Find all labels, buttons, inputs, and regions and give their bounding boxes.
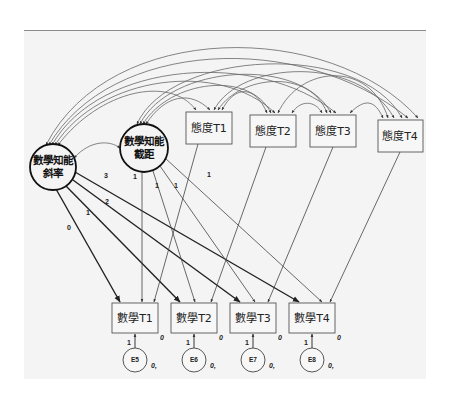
error-E6[interactable]: E6	[182, 348, 206, 372]
latent-slope-label-1: 數學知能	[33, 154, 74, 166]
E6-label: E6	[190, 356, 198, 363]
intercept-loading-4: 1	[207, 171, 211, 178]
math1-intercept: 0	[160, 334, 164, 341]
att4-label: 態度T4	[382, 129, 418, 143]
indicator-math2[interactable]: 數學T2	[171, 303, 217, 333]
intercept-loading-2: 1	[155, 182, 159, 189]
E7-label: E7	[249, 356, 257, 363]
att2-label: 態度T2	[255, 124, 291, 138]
covariate-paths	[154, 144, 400, 302]
latent-intercept[interactable]: 數學知能 截距	[120, 124, 168, 172]
slope-loading-1: 1	[86, 209, 90, 216]
slope-loading-2: 2	[105, 198, 109, 205]
E6-param: 0,	[210, 362, 216, 370]
indicator-math3[interactable]: 數學T3	[230, 303, 276, 333]
E5-loading: 1	[127, 339, 131, 346]
covariate-att1[interactable]: 態度T1	[186, 112, 232, 144]
latent-intercept-label-2: 截距	[134, 148, 155, 160]
E6-loading: 1	[186, 339, 190, 346]
math3-intercept: 0	[278, 334, 282, 341]
path-diagram: 數學知能 斜率 數學知能 截距 態度T1 態度T2 態度T3 態度T4 數學T1…	[0, 0, 450, 400]
E5-label: E5	[131, 356, 139, 363]
math2-intercept: 0	[219, 334, 223, 341]
math4-label: 數學T4	[294, 312, 330, 325]
att3-label: 態度T3	[315, 124, 351, 138]
math1-label: 數學T1	[117, 312, 153, 325]
error-E5[interactable]: E5	[123, 348, 147, 372]
latent-intercept-label-1: 數學知能	[124, 135, 165, 147]
error-E8[interactable]: E8	[300, 348, 324, 372]
latent-slope[interactable]: 數學知能 斜率	[30, 144, 76, 190]
error-E7[interactable]: E7	[241, 348, 265, 372]
covariate-att4[interactable]: 態度T4	[378, 120, 423, 152]
E7-param: 0,	[269, 362, 275, 370]
indicator-math1[interactable]: 數學T1	[112, 303, 158, 333]
intercept-loading-3: 1	[174, 182, 178, 189]
E8-label: E8	[308, 356, 316, 363]
E8-loading: 1	[304, 339, 308, 346]
E7-loading: 1	[245, 339, 249, 346]
att1-label: 態度T1	[191, 121, 227, 135]
math4-intercept: 0	[337, 334, 341, 341]
indicator-math4[interactable]: 數學T4	[289, 303, 335, 333]
math3-label: 數學T3	[235, 312, 271, 325]
intercept-paths	[142, 158, 322, 302]
covariate-att3[interactable]: 態度T3	[310, 115, 356, 147]
E5-param: 0,	[151, 362, 157, 370]
math2-label: 數學T2	[176, 312, 212, 325]
intercept-loading-1: 1	[133, 173, 137, 180]
slope-loading-3: 3	[104, 172, 108, 179]
latent-slope-label-2: 斜率	[42, 167, 64, 179]
E8-param: 0,	[328, 362, 334, 370]
covariate-att2[interactable]: 態度T2	[250, 115, 296, 147]
slope-loading-0: 0	[67, 224, 71, 231]
